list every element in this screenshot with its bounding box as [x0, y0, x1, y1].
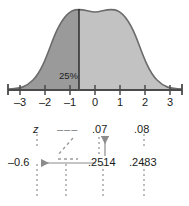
z-table-row-label: –0.6 [8, 156, 29, 168]
normal-distribution-chart: 25% –3 –2 –1 0 1 2 3 [0, 0, 189, 112]
z-table-header-08: .08 [134, 123, 149, 135]
x-axis-label--3: –3 [12, 97, 28, 108]
x-axis-label-0: 0 [87, 97, 103, 108]
z-table-header-z: z [33, 123, 39, 135]
x-axis-label-2: 2 [137, 97, 153, 108]
diagonal-dashed-guide [57, 138, 73, 156]
x-axis-label--2: –2 [37, 97, 53, 108]
z-table-value-08: .2483 [129, 156, 157, 168]
normal-curve-ztable-figure: 25% –3 –2 –1 0 1 2 3 [0, 0, 189, 206]
x-axis-label-1: 1 [112, 97, 128, 108]
shaded-area-percent-label: 25% [59, 71, 78, 81]
x-axis-label-3: 3 [162, 97, 178, 108]
z-table-header-dots: ––– [57, 123, 78, 135]
right-region-fill [8, 9, 182, 89]
z-table-value-07: .2514 [88, 156, 116, 168]
z-table-header-07: .07 [92, 123, 107, 135]
x-axis-label--1: –1 [62, 97, 78, 108]
z-table-excerpt: z ––– .07 .08 –0.6 .2514 .2483 [0, 112, 189, 206]
